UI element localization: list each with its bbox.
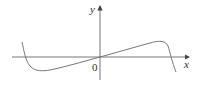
origin-label: 0 — [92, 62, 98, 73]
graph-canvas — [0, 0, 201, 86]
y-axis-label: y — [90, 4, 95, 15]
x-axis-label: x — [184, 59, 189, 70]
